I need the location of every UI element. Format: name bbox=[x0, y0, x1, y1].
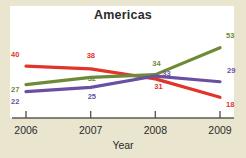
x-tick-label-2009: 2009 bbox=[200, 124, 240, 136]
x-tick-label-2007: 2007 bbox=[71, 124, 111, 136]
value-label-purple-series-2006: 22 bbox=[11, 97, 19, 106]
value-label-green-series-2008: 34 bbox=[152, 59, 160, 68]
value-label-red-series-2009: 18 bbox=[226, 100, 234, 109]
value-label-red-series-2007: 38 bbox=[87, 51, 95, 60]
x-axis-title: Year bbox=[0, 139, 246, 151]
value-label-red-series-2008: 31 bbox=[154, 82, 162, 91]
value-label-green-series-2007: 32 bbox=[88, 74, 96, 83]
series-lines bbox=[26, 48, 220, 98]
x-tick-label-2008: 2008 bbox=[135, 124, 175, 136]
value-label-red-series-2006: 40 bbox=[11, 50, 19, 59]
value-label-purple-series-2007: 25 bbox=[88, 92, 96, 101]
value-label-green-series-2006: 27 bbox=[11, 85, 19, 94]
x-axis bbox=[12, 111, 234, 118]
value-label-purple-series-2009: 29 bbox=[227, 66, 235, 75]
value-label-purple-series-2008: 33 bbox=[162, 69, 170, 78]
x-tick-label-2006: 2006 bbox=[6, 124, 46, 136]
chart-container: Americas 2006200720082009 Year 403831182… bbox=[0, 0, 246, 158]
value-label-green-series-2009: 53 bbox=[226, 31, 234, 40]
